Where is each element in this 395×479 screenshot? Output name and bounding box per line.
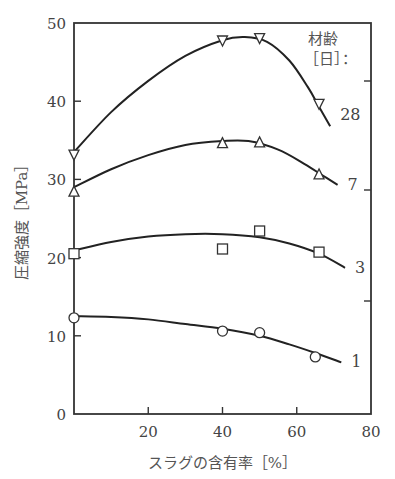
data-point-square xyxy=(69,249,79,259)
compressive-strength-chart: 28731 0102030405020406080スラグの含有率［%］圧縮強度［… xyxy=(0,0,395,479)
fit-curve xyxy=(74,316,341,362)
series-3: 3 xyxy=(69,226,365,277)
y-tick-label: 30 xyxy=(47,171,66,189)
data-point-circle xyxy=(310,352,320,362)
fit-curve xyxy=(74,140,338,187)
y-tick-label: 40 xyxy=(47,93,66,111)
x-tick-label: 20 xyxy=(139,423,158,441)
fit-curve xyxy=(74,37,330,152)
fit-curve xyxy=(74,234,345,268)
y-axis-title: 圧縮強度［MPa］ xyxy=(13,157,31,281)
legend-title: 材齢 xyxy=(308,30,338,48)
axis-labels: 0102030405020406080スラグの含有率［%］圧縮強度［MPa］材齢… xyxy=(13,15,381,472)
series-label-3: 3 xyxy=(355,258,365,277)
x-tick-label: 60 xyxy=(287,423,306,441)
data-point-triangle-down xyxy=(69,150,79,160)
data-point-circle xyxy=(218,326,228,336)
y-tick-label: 20 xyxy=(47,250,66,268)
data-series: 28731 xyxy=(69,34,365,372)
data-point-circle xyxy=(255,328,265,338)
legend-title-unit: ［日］： xyxy=(304,50,357,68)
series-label-7: 7 xyxy=(348,175,358,194)
data-point-triangle-up xyxy=(69,186,79,196)
data-point-square xyxy=(255,226,265,236)
data-point-triangle-up xyxy=(218,138,228,148)
series-1: 1 xyxy=(69,313,361,372)
series-7: 7 xyxy=(69,137,358,196)
series-label-28: 28 xyxy=(340,105,360,124)
y-tick-label: 0 xyxy=(56,406,66,424)
y-tick-label: 50 xyxy=(47,15,66,33)
series-label-1: 1 xyxy=(351,352,361,371)
x-tick-label: 40 xyxy=(213,423,232,441)
plot-border xyxy=(74,23,371,414)
data-point-square xyxy=(314,247,324,257)
data-point-circle xyxy=(69,313,79,323)
y-tick-label: 10 xyxy=(47,328,66,346)
x-tick-label: 80 xyxy=(361,423,380,441)
data-point-square xyxy=(218,244,228,254)
data-point-triangle-down xyxy=(314,99,324,109)
x-axis-title: スラグの含有率［%］ xyxy=(148,454,297,472)
plot-frame xyxy=(74,23,371,414)
